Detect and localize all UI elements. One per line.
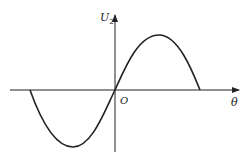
- origin-label: O: [120, 95, 128, 106]
- x-axis-label: θ: [231, 96, 238, 109]
- y-axis-label: U2: [100, 11, 114, 26]
- sine-diagram: U2 O θ: [0, 0, 245, 160]
